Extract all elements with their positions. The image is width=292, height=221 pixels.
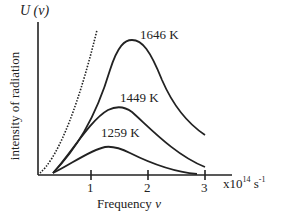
curve-classical-dotted xyxy=(40,30,97,173)
x-unit-s-exp: -1 xyxy=(259,175,266,184)
x-axis-label-text: Frequency xyxy=(97,196,155,211)
x-tick-label-2: 2 xyxy=(144,180,151,196)
label-1259K: 1259 K xyxy=(101,125,140,141)
x-unit-exp: 14 xyxy=(243,175,251,184)
x-unit-base: x10 xyxy=(223,176,243,191)
label-1646K: 1646 K xyxy=(140,27,179,43)
label-1449K: 1449 K xyxy=(120,90,159,106)
x-tick-label-3: 3 xyxy=(201,180,208,196)
x-tick-label-1: 1 xyxy=(87,180,94,196)
x-unit: x1014 s-1 xyxy=(223,175,265,192)
y-axis-label: intensity of radiation xyxy=(7,31,23,181)
x-axis-label: Frequency ν xyxy=(97,196,161,212)
y-symbol: U (ν) xyxy=(20,3,49,19)
x-axis-label-symbol: ν xyxy=(155,196,161,211)
